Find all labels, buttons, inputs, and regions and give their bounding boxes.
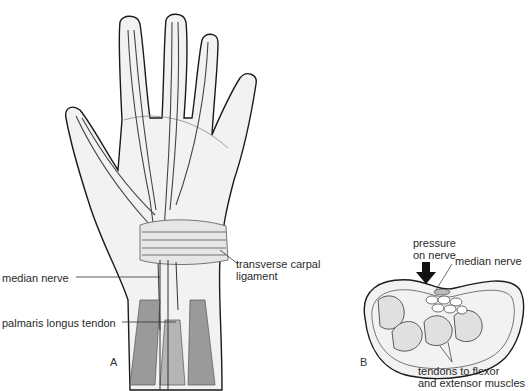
hand-outline [66,14,257,390]
hand-illustration [0,0,528,391]
label-tendons-1: tendons to flexor [418,365,499,377]
label-median-nerve-a: median nerve [2,272,69,284]
pressure-arrow-icon [416,262,436,284]
label-palmaris-longus-tendon: palmaris longus tendon [2,317,116,329]
panel-letter-a: A [110,356,117,368]
panel-letter-b: B [360,356,367,368]
median-nerve-leader-b [436,264,452,290]
label-transverse-carpal-ligament-1: transverse carpal [236,258,320,270]
label-transverse-carpal-ligament-2: ligament [236,270,278,282]
transverse-carpal-ligament [140,220,228,265]
label-pressure-2: on nerve [413,249,456,261]
label-tendons-2: and extensor muscles [418,377,525,389]
wrist-cross-section [364,280,523,379]
label-median-nerve-b: median nerve [455,255,522,267]
label-pressure-1: pressure [413,237,456,249]
